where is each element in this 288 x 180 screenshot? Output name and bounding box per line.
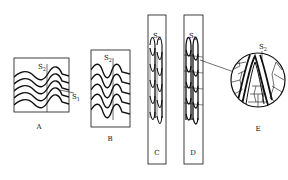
panel-d: S2 D bbox=[184, 15, 203, 164]
panel-e-label: E bbox=[255, 125, 260, 133]
label-s2-a: S2 bbox=[38, 63, 46, 72]
panel-c: S2 C bbox=[148, 15, 166, 164]
label-s2-d: S2 bbox=[189, 32, 197, 41]
panel-b-label: B bbox=[107, 135, 112, 143]
panel-a-label: A bbox=[35, 123, 42, 131]
panel-d-label: D bbox=[190, 149, 196, 157]
panel-e: S2 E bbox=[231, 43, 285, 133]
label-s1-a: S1 bbox=[72, 93, 80, 102]
inset-leader-line bbox=[200, 60, 234, 72]
diagram-canvas: S2 S1 A S2 B S2 C bbox=[0, 0, 288, 180]
panel-c-label: C bbox=[154, 149, 159, 157]
label-s2-c: S2 bbox=[153, 32, 161, 41]
panel-b: S2 B bbox=[91, 50, 130, 143]
label-s2-e: S2 bbox=[259, 43, 267, 52]
label-s2-b: S2 bbox=[104, 54, 112, 63]
panel-a: S2 S1 A bbox=[14, 58, 80, 131]
